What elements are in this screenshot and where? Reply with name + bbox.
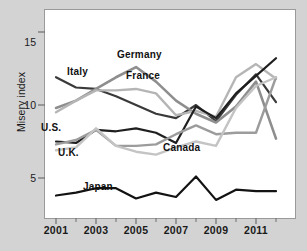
source-note [6,243,306,251]
series-label-france: France [126,70,160,81]
series-label-germany: Germany [117,49,162,60]
series-label-uk: U.K. [58,147,79,158]
series-label-canada: Canada [163,142,200,153]
series-label-italy: Italy [67,66,88,77]
series-label-us: U.S. [41,122,61,133]
chart-page: Misery index 15 10 5 2001 2003 2005 2007… [0,0,307,251]
series-label-japan: Japan [83,181,113,192]
